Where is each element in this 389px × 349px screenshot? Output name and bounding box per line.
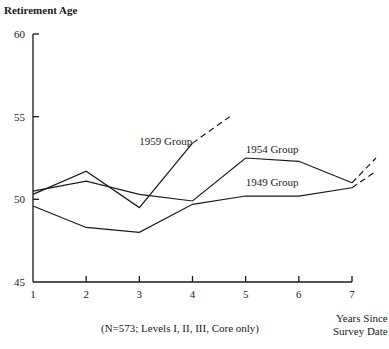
series-line-1949-group [33,188,352,233]
series-label: 1949 Group [246,176,299,188]
y-tick-label: 60 [14,28,26,40]
y-tick-label: 55 [14,111,26,123]
y-tick-labels: 60555045 [14,28,26,288]
x-tick-labels: 1234567 [30,288,355,300]
line-chart: Retirement Age 60555045 1234567 1959 Gro… [0,0,389,349]
y-axis-title: Retirement Age [4,4,78,16]
x-tick-label: 2 [83,288,89,300]
y-tick-label: 50 [14,193,26,205]
x-axis-title-line2: Survey Date [333,325,388,337]
x-tick-label: 6 [296,288,302,300]
series-line-1954-group [33,158,352,201]
sample-note: (N=573; Levels I, II, III, Core only) [101,322,259,335]
axes [33,34,352,282]
projection-line-1959-group [193,117,230,143]
y-tick-label: 45 [14,276,26,288]
series-label: 1959 Group [139,135,192,147]
x-tick-label: 3 [137,288,143,300]
x-tick-label: 4 [190,288,196,300]
x-tick-label: 1 [30,288,36,300]
x-tick-label: 5 [243,288,249,300]
series-lines [33,117,376,233]
series-label: 1954 Group [246,143,299,155]
x-tick-label: 7 [349,288,355,300]
x-axis-title-line1: Years Since [336,312,388,324]
